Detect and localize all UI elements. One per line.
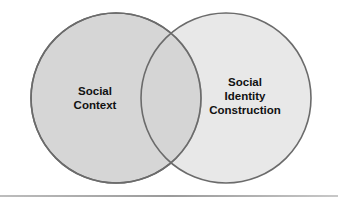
venn-diagram: Social Context Social Identity Construct… [0, 0, 338, 200]
label-left-line2: Context [74, 99, 117, 111]
label-right-line2: Identity [225, 90, 266, 102]
label-right-line3: Construction [209, 104, 281, 116]
label-right-line1: Social [228, 76, 262, 88]
label-left-line1: Social [78, 85, 112, 97]
bottom-divider [0, 195, 338, 197]
